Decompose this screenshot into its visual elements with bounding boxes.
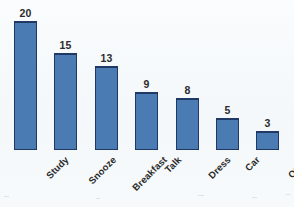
bar-value-label: 9 <box>125 78 168 90</box>
bar-value-label: 3 <box>246 117 289 129</box>
bar-value-label: 8 <box>166 84 209 96</box>
category-label: Study <box>44 154 71 181</box>
plot-area: 20Study15Snooze13Breakfast9Talk8Dress5Ca… <box>0 0 294 207</box>
bar[interactable] <box>14 21 37 150</box>
category-label: Dress <box>206 154 233 181</box>
category-label: Car <box>243 154 262 173</box>
category-label: Talk <box>162 154 183 175</box>
bar[interactable] <box>54 53 77 150</box>
bar[interactable] <box>176 98 199 150</box>
bar[interactable] <box>135 92 158 150</box>
category-label: Snooze <box>86 154 118 186</box>
bar-value-label: 5 <box>206 104 249 116</box>
bar[interactable] <box>256 131 279 150</box>
bar[interactable] <box>95 66 118 150</box>
bar-value-label: 13 <box>85 52 128 64</box>
bar-value-label: 20 <box>4 7 47 19</box>
category-label: Other <box>286 154 294 180</box>
bar-value-label: 15 <box>44 39 87 51</box>
bar[interactable] <box>216 118 239 150</box>
category-label: Breakfast <box>130 154 169 193</box>
bar-chart: 20Study15Snooze13Breakfast9Talk8Dress5Ca… <box>0 0 294 207</box>
